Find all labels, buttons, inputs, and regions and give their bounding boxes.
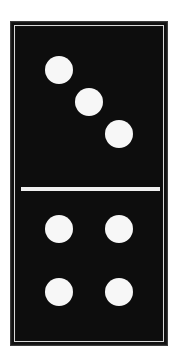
domino-face (16, 27, 162, 340)
bottom-pip-3 (45, 278, 73, 306)
domino-tile (11, 22, 167, 345)
top-pip-2 (75, 88, 103, 116)
bottom-pip-2 (105, 215, 133, 243)
top-pip-3 (105, 120, 133, 148)
bottom-pip-4 (105, 278, 133, 306)
bottom-pip-1 (45, 215, 73, 243)
top-pip-1 (45, 56, 73, 84)
domino-divider (21, 187, 160, 191)
